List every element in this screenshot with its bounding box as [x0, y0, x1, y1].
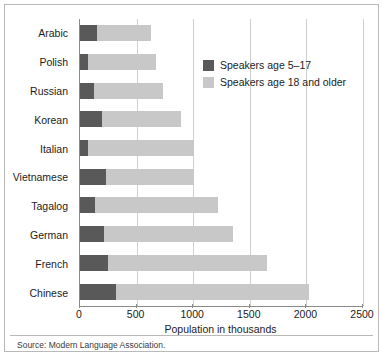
bar-segment[interactable] — [80, 25, 97, 41]
bar-segment[interactable] — [102, 111, 181, 127]
bar-row[interactable] — [80, 284, 362, 300]
bar-segment[interactable] — [108, 255, 266, 271]
source-note: Source: Modern Language Association. — [17, 340, 165, 350]
bar-segment[interactable] — [80, 255, 108, 271]
tick-label: 2500 — [350, 308, 373, 320]
bar-segment[interactable] — [80, 226, 104, 242]
bar-row[interactable] — [80, 169, 362, 185]
bar-row[interactable] — [80, 25, 362, 41]
legend-label: Speakers age 5–17 — [220, 59, 311, 71]
value-axis-ticks: 05001000150020002500 — [79, 308, 362, 322]
bar-segment[interactable] — [94, 83, 163, 99]
category-label: French — [5, 256, 73, 272]
bar-row[interactable] — [80, 197, 362, 213]
category-label: German — [5, 227, 73, 243]
category-label: Korean — [5, 112, 73, 128]
bar-segment[interactable] — [97, 25, 151, 41]
bar-segment[interactable] — [106, 169, 194, 185]
tick-label: 500 — [127, 308, 145, 320]
legend-item[interactable]: Speakers age 5–17 — [203, 58, 346, 72]
tick-label: 1500 — [237, 308, 260, 320]
category-label: Arabic — [5, 25, 73, 41]
bar-row[interactable] — [80, 226, 362, 242]
bar-row[interactable] — [80, 140, 362, 156]
source-divider — [10, 335, 373, 336]
category-label: Vietnamese — [5, 169, 73, 185]
bar-row[interactable] — [80, 111, 362, 127]
figure-frame: ArabicPolishRussianKoreanItalianVietname… — [4, 4, 379, 352]
bar-segment[interactable] — [80, 111, 102, 127]
category-label: Italian — [5, 141, 73, 157]
bar-segment[interactable] — [80, 284, 116, 300]
bar-segment[interactable] — [88, 140, 194, 156]
legend-swatch-adult — [203, 77, 214, 88]
bar-row[interactable] — [80, 255, 362, 271]
tick-label: 1000 — [181, 308, 204, 320]
gridline — [363, 19, 364, 306]
category-label: Russian — [5, 83, 73, 99]
legend: Speakers age 5–17Speakers age 18 and old… — [203, 58, 346, 92]
bar-segment[interactable] — [95, 197, 218, 213]
figure-container: ArabicPolishRussianKoreanItalianVietname… — [0, 0, 383, 360]
legend-swatch-young — [203, 60, 214, 71]
bar-segment[interactable] — [104, 226, 233, 242]
tick-label: 0 — [76, 308, 82, 320]
bar-segment[interactable] — [116, 284, 308, 300]
category-label: Tagalog — [5, 198, 73, 214]
bar-segment[interactable] — [80, 83, 94, 99]
bar-segment[interactable] — [80, 169, 106, 185]
bar-segment[interactable] — [80, 140, 88, 156]
bar-segment[interactable] — [88, 54, 156, 70]
category-label: Polish — [5, 54, 73, 70]
bar-segment[interactable] — [80, 54, 88, 70]
bar-segment[interactable] — [80, 197, 95, 213]
category-label: Chinese — [5, 285, 73, 301]
legend-label: Speakers age 18 and older — [220, 76, 346, 88]
category-axis-labels: ArabicPolishRussianKoreanItalianVietname… — [5, 19, 73, 307]
tick-label: 2000 — [294, 308, 317, 320]
x-axis-title: Population in thousands — [79, 323, 362, 335]
legend-item[interactable]: Speakers age 18 and older — [203, 75, 346, 89]
